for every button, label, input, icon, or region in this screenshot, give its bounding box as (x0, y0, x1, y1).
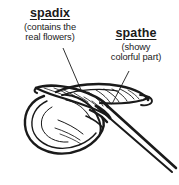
spadix-protrusion (35, 86, 108, 115)
flower-stem (98, 102, 176, 172)
annotation-spadix-title: spadix (6, 7, 94, 21)
annotation-spathe-title: spathe (94, 27, 178, 41)
annotation-spathe-description-line-1: (showy (94, 42, 178, 52)
annotation-spadix-description-line-1: (contains the (6, 22, 94, 32)
spathe-outer-bract (25, 96, 104, 154)
annotation-spathe: spathe (showy colorful part) (94, 27, 178, 62)
figure-canvas: spadix (contains the real flowers) spath… (0, 0, 179, 185)
annotation-spadix-description-line-2: real flowers) (6, 32, 94, 42)
annotation-spathe-description-line-2: colorful part) (94, 52, 178, 62)
annotation-spadix: spadix (contains the real flowers) (6, 7, 94, 42)
